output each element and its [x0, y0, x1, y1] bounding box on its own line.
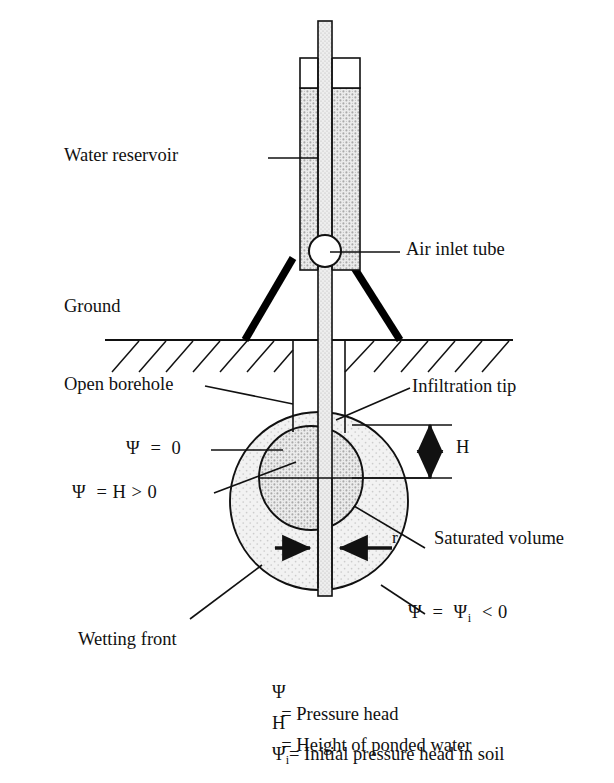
- label-wetting-front: Wetting front: [78, 630, 177, 649]
- figure-canvas: Water reservoir Air inlet tube Ground Op…: [0, 0, 614, 783]
- psi-H-rest: = H > 0: [86, 482, 157, 502]
- label-open-borehole: Open borehole: [64, 375, 173, 394]
- air-inlet-orifice: [309, 235, 341, 267]
- label-saturated-volume: Saturated volume: [434, 529, 564, 548]
- psi-symbol: Ψ: [408, 602, 422, 622]
- legend-row-psi-i: Ψi= Initial pressure head in soil: [272, 745, 504, 767]
- leader-infiltration-tip: [336, 388, 410, 420]
- legend-symbol: Ψ: [272, 744, 286, 764]
- psi-zero-rest: = 0: [140, 438, 181, 458]
- air-inlet-standpipe: [318, 21, 332, 596]
- psi-i-mid: =: [422, 602, 453, 622]
- annotation-psi-zero: Ψ = 0: [126, 439, 181, 458]
- label-dimension-r: r: [392, 528, 398, 546]
- psi-i-rest: < 0: [472, 602, 508, 622]
- ground-hatching: [112, 341, 509, 372]
- leader-open-borehole: [205, 386, 293, 404]
- label-water-reservoir: Water reservoir: [64, 146, 178, 165]
- psi-symbol: Ψ: [72, 482, 86, 502]
- label-dimension-H: H: [456, 438, 469, 457]
- label-infiltration-tip: Infiltration tip: [412, 377, 516, 396]
- label-air-inlet-tube: Air inlet tube: [406, 240, 505, 259]
- legend-symbol: H: [272, 713, 285, 733]
- psi-symbol-2: Ψ: [454, 602, 468, 622]
- legend-symbol: Ψ: [272, 682, 286, 702]
- label-ground: Ground: [64, 297, 121, 316]
- leader-wetting-front: [190, 565, 262, 619]
- annotation-psi-i: Ψ = Ψi < 0: [408, 603, 508, 625]
- legend-text: = Initial pressure head in soil: [289, 744, 504, 764]
- annotation-psi-H: Ψ = H > 0: [72, 483, 157, 502]
- psi-symbol: Ψ: [126, 438, 140, 458]
